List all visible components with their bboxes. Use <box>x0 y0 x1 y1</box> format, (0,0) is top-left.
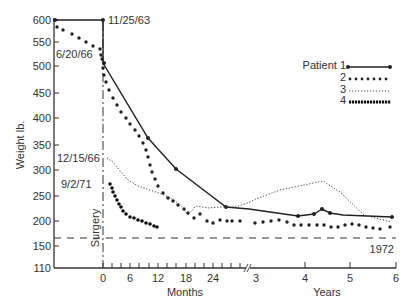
x-ticks-months <box>103 263 240 268</box>
y-tick-label: 300 <box>33 164 51 176</box>
y-tick-label: 350 <box>33 139 51 151</box>
x-tick-label: 24 <box>207 272 219 284</box>
x-tick-label: 6 <box>393 272 399 284</box>
y-tick-label: 600 <box>33 14 51 26</box>
legend-swatch-2 <box>349 78 388 81</box>
y-tick-label: 200 <box>33 215 51 227</box>
y-tick-label: 500 <box>33 60 51 72</box>
x-axis-title-years: Years <box>313 286 341 298</box>
legend-label-4: 4 <box>340 94 346 106</box>
x-axis-title-months: Months <box>167 286 204 298</box>
x-tick-label: 5 <box>347 272 353 284</box>
legend-label-2: 2 <box>340 71 346 83</box>
series-patient-1 <box>53 18 394 219</box>
x-tick-label: 12 <box>152 272 164 284</box>
x-tick-label: 6 <box>127 272 133 284</box>
x-tick-label: 18 <box>180 272 192 284</box>
y-tick-label: 400 <box>33 112 51 124</box>
date-label-patient-3: 12/15/66 <box>57 152 100 164</box>
year-1972-label: 1972 <box>370 243 394 255</box>
weight-loss-chart: 600 550 500 450 400 350 300 250 200 150 … <box>0 0 411 303</box>
y-tick-label: 550 <box>33 36 51 48</box>
y-axis-title: Weight lb. <box>14 121 26 170</box>
date-label-patient-4: 9/2/71 <box>61 178 92 190</box>
series-patient-3 <box>107 158 391 222</box>
y-tick-label: 450 <box>33 87 51 99</box>
x-tick-label: 3 <box>253 272 259 284</box>
series-patient-4 <box>108 182 159 229</box>
legend: Patient 1 2 3 4 <box>303 59 392 106</box>
x-tick-label: 0 <box>100 272 106 284</box>
y-tick-label: 150 <box>33 240 51 252</box>
x-ticks-years <box>305 262 396 268</box>
legend-label-1: Patient 1 <box>303 59 346 71</box>
date-label-patient-2: 6/20/66 <box>56 48 93 60</box>
series-patient-2 <box>55 25 391 230</box>
y-tick-label: 250 <box>33 190 51 202</box>
x-tick-label: 4 <box>302 272 308 284</box>
date-label-patient-1: 11/25/63 <box>108 14 150 26</box>
surgery-label: Surgery <box>89 208 101 247</box>
y-tick-label: 110 <box>33 262 51 274</box>
